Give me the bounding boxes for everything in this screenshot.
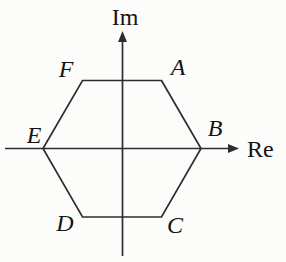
vertex-label-d: D (55, 210, 73, 236)
complex-plane-hexagon-figure: Im Re A B C D E F (0, 0, 286, 262)
re-axis-label: Re (247, 136, 274, 162)
vertex-label-b: B (208, 115, 223, 141)
im-axis-label: Im (112, 4, 139, 30)
vertex-label-e: E (26, 122, 42, 148)
im-axis-arrowhead-icon (118, 31, 127, 42)
vertex-label-a: A (169, 54, 186, 80)
figure-svg: Im Re A B C D E F (0, 0, 286, 262)
re-axis-arrowhead-icon (228, 144, 239, 153)
vertex-label-f: F (58, 56, 74, 82)
vertex-label-c: C (167, 212, 184, 238)
